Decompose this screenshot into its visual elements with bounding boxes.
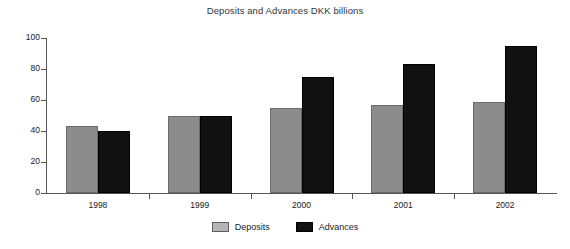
legend-item-deposits: Deposits	[212, 222, 270, 232]
bar-advances-2001	[403, 64, 435, 193]
x-axis-tick-label: 2000	[262, 200, 342, 210]
x-axis-tick-label: 2002	[465, 200, 545, 210]
bar-advances-2002	[505, 46, 537, 193]
x-axis-tick-label: 1999	[160, 200, 240, 210]
y-axis-tick-label: 20	[6, 157, 40, 167]
bar-deposits-2002	[473, 102, 505, 193]
bar-advances-1999	[200, 116, 232, 194]
bar-advances-2000	[302, 77, 334, 193]
bar-deposits-1999	[168, 116, 200, 194]
y-axis-tick-label-text: 0	[12, 188, 40, 197]
legend-label-deposits: Deposits	[235, 222, 270, 232]
bar-deposits-1998	[66, 126, 98, 193]
bar-advances-1998	[98, 131, 130, 193]
x-axis-tick	[454, 194, 455, 199]
x-axis-tick	[251, 194, 252, 199]
y-axis-tick-label: 100	[6, 33, 40, 43]
y-axis-tick-label-text: 80	[12, 64, 40, 73]
x-axis-tick-label: 2001	[363, 200, 443, 210]
plot-area	[47, 38, 556, 193]
bar-deposits-2001	[371, 105, 403, 193]
legend-item-advances: Advances	[296, 222, 359, 232]
bar-chart: Deposits and Advances DKK billions 02040…	[0, 0, 570, 249]
x-axis-line	[46, 193, 557, 194]
legend-label-advances: Advances	[319, 222, 359, 232]
y-axis-tick-label: 60	[6, 95, 40, 105]
y-axis-tick	[41, 193, 47, 194]
x-axis-tick	[352, 194, 353, 199]
y-axis-tick-label-text: 60	[12, 95, 40, 104]
y-axis-tick-label-text: 20	[12, 157, 40, 166]
x-axis-tick-label: 1998	[58, 200, 138, 210]
deposits-swatch	[212, 222, 229, 232]
advances-swatch	[296, 222, 313, 232]
chart-legend: DepositsAdvances	[0, 222, 570, 232]
y-axis-tick-label: 80	[6, 64, 40, 74]
y-axis-tick-label: 0	[6, 188, 40, 198]
x-axis-tick	[149, 194, 150, 199]
bar-deposits-2000	[270, 108, 302, 193]
chart-title: Deposits and Advances DKK billions	[0, 5, 570, 16]
y-axis-tick-label-text: 100	[12, 33, 40, 42]
y-axis-tick-label-text: 40	[12, 126, 40, 135]
y-axis-tick-label: 40	[6, 126, 40, 136]
